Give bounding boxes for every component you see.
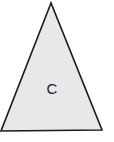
- triangle-diagram: [0, 0, 114, 142]
- triangle-shape: [1, 3, 102, 131]
- triangle-label: C: [44, 80, 60, 98]
